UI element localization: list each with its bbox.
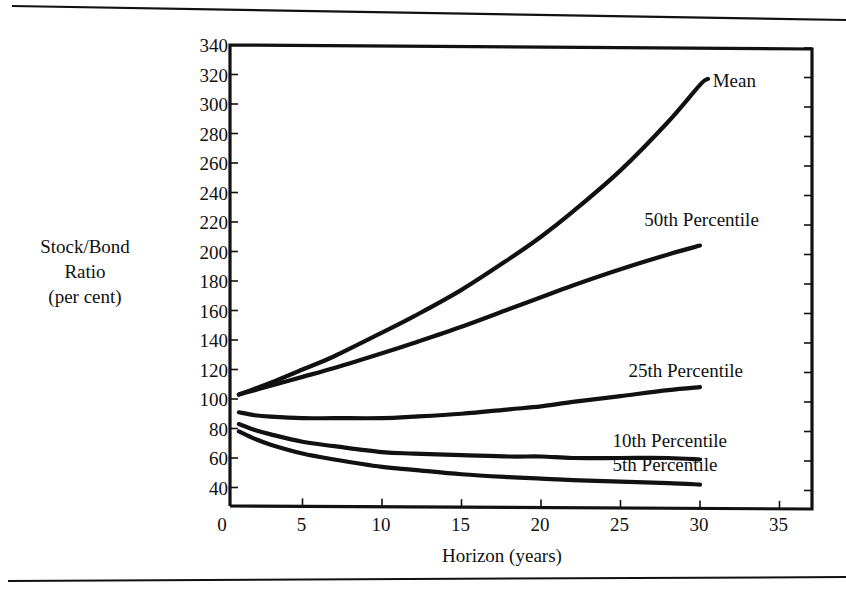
x-axis: 05101520253035 — [217, 498, 788, 535]
y-axis-title-line-3: (per cent) — [48, 286, 121, 308]
x-tick-label: 10 — [372, 514, 391, 535]
y-tick-label: 340 — [200, 35, 229, 56]
y-tick-label: 220 — [200, 212, 229, 233]
y-tick-label: 180 — [200, 271, 229, 292]
y-tick-label: 100 — [200, 389, 229, 410]
x-tick-label: 5 — [297, 514, 307, 535]
y-axis-title: Stock/Bond Ratio (per cent) — [40, 236, 130, 308]
y-tick-label: 80 — [209, 419, 228, 440]
series-line-mean — [239, 79, 708, 395]
y-tick-label: 140 — [200, 330, 229, 351]
y-axis-title-line-2: Ratio — [64, 261, 105, 282]
y-tick-label: 300 — [200, 94, 229, 115]
y-tick-label: 160 — [200, 301, 229, 322]
bottom-rule — [8, 577, 846, 581]
y-axis-title-line-1: Stock/Bond — [40, 236, 130, 257]
y-tick-label: 120 — [200, 360, 229, 381]
top-rule — [12, 6, 846, 20]
x-tick-label: 35 — [769, 514, 788, 535]
chart: 4060801001201401601802002202402602803003… — [0, 0, 846, 592]
y-tick-label: 280 — [200, 124, 229, 145]
series-label: 10th Percentile — [613, 430, 728, 451]
x-tick-label: 15 — [451, 514, 470, 535]
x-tick-label: 0 — [217, 514, 227, 535]
series-line-25th-percentile — [239, 387, 700, 418]
series-labels: Mean50th Percentile25th Percentile10th P… — [613, 70, 759, 475]
y-tick-label: 260 — [200, 153, 229, 174]
y-tick-label: 240 — [200, 183, 229, 204]
series-label: 5th Percentile — [613, 454, 718, 475]
y-tick-label: 200 — [200, 242, 229, 263]
x-tick-label: 20 — [531, 514, 550, 535]
y-axis: 4060801001201401601802002202402602803003… — [200, 35, 813, 499]
y-tick-label: 60 — [209, 448, 228, 469]
y-tick-label: 320 — [200, 65, 229, 86]
x-tick-label: 25 — [610, 514, 629, 535]
x-axis-title: Horizon (years) — [442, 545, 562, 567]
series-label: 50th Percentile — [644, 209, 759, 230]
series-label: 25th Percentile — [628, 360, 743, 381]
series-label: Mean — [713, 70, 757, 91]
y-tick-label: 40 — [209, 478, 228, 499]
x-tick-label: 30 — [690, 514, 709, 535]
series-lines — [239, 79, 708, 485]
